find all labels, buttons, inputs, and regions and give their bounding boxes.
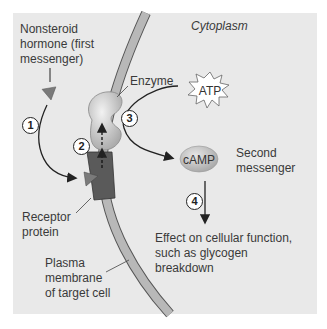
label-camp: cAMP: [182, 153, 216, 167]
step-4-badge: 4: [186, 193, 203, 210]
step-2-badge: 2: [73, 138, 90, 155]
label-second-1: Second: [236, 146, 277, 160]
label-receptor-1: Receptor: [22, 210, 71, 224]
label-cytoplasm: Cytoplasm: [191, 19, 248, 33]
label-enzyme: Enzyme: [130, 74, 173, 88]
label-membrane-2: membrane: [45, 271, 102, 285]
hormone-triangle: [42, 87, 58, 101]
label-receptor-2: protein: [22, 225, 59, 239]
enzyme-shape: [89, 92, 122, 150]
step-3-badge: 3: [121, 110, 138, 127]
label-second-2: messenger: [236, 161, 295, 175]
label-effect-3: breakdown: [155, 261, 214, 275]
step-1-badge: 1: [22, 117, 39, 134]
label-effect-2: such as glycogen: [155, 246, 248, 260]
label-hormone-2: hormone (first: [20, 37, 94, 51]
arrow-step-1: [39, 105, 75, 178]
label-effect-1: Effect on cellular function,: [155, 231, 292, 245]
label-membrane-1: Plasma: [45, 256, 85, 270]
label-hormone-3: messenger): [20, 52, 83, 66]
label-membrane-3: of target cell: [45, 286, 110, 300]
label-hormone-1: Nonsteroid: [20, 22, 78, 36]
label-atp: ATP: [196, 84, 224, 98]
